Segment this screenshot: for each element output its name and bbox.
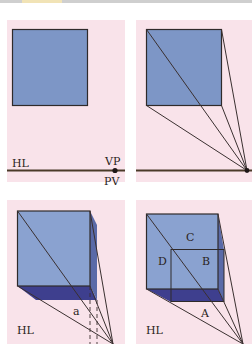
vanishing-point-dot	[112, 168, 117, 173]
face-label-d: D	[158, 256, 167, 267]
front-square	[13, 30, 88, 106]
right-side-face	[90, 211, 97, 300]
point-of-view-label: PV	[104, 176, 119, 187]
face-label-c: C	[186, 232, 194, 243]
vanishing-point-label: VP	[105, 156, 120, 167]
front-face	[18, 211, 91, 286]
panel-2-drawing	[136, 30, 252, 173]
vanishing-point-dot	[245, 168, 250, 173]
front-face	[147, 214, 219, 289]
face-label-a: A	[201, 308, 209, 319]
perspective-diagram	[0, 0, 252, 344]
horizon-label: HL	[146, 325, 163, 336]
depth-label-a: a	[73, 306, 80, 317]
horizon-label: HL	[17, 325, 34, 336]
front-square	[147, 30, 222, 106]
face-label-b: B	[202, 256, 210, 267]
horizon-label: HL	[12, 158, 29, 169]
panel-1-drawing	[7, 30, 125, 174]
